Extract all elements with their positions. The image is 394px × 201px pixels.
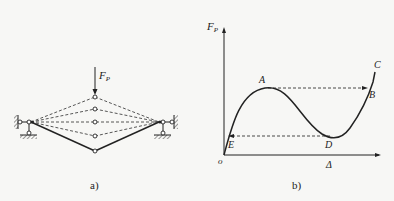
snap-back-D-to-E: [228, 134, 330, 138]
load-displacement-curve: [224, 72, 375, 155]
figure-canvas: FP a) FP o Δ A B C D E: [0, 0, 394, 201]
x-axis-label: Δ: [325, 159, 332, 170]
caption-b: b): [292, 179, 302, 192]
point-label-C: C: [374, 59, 381, 70]
truss-joints: [93, 95, 97, 153]
point-label-B: B: [369, 89, 375, 100]
force-label-a: FP: [98, 69, 111, 83]
snap-through-A-to-B: [268, 86, 368, 90]
figure-a-truss: FP a): [14, 67, 178, 192]
left-pin-support: [14, 115, 37, 139]
caption-a: a): [90, 179, 99, 192]
point-label-D: D: [324, 139, 333, 150]
origin-label: o: [218, 156, 223, 166]
figure-b-load-displacement-plot: FP o Δ A B C D E b): [206, 20, 381, 192]
right-pin-support: [154, 115, 178, 139]
point-label-A: A: [258, 74, 266, 85]
point-label-E: E: [227, 139, 234, 150]
y-axis-label: FP: [206, 20, 219, 34]
load-arrow: [93, 67, 98, 95]
x-axis: [224, 153, 381, 157]
y-axis: [222, 27, 226, 155]
